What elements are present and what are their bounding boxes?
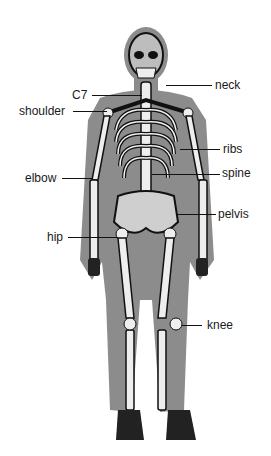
shoulder-label: shoulder <box>19 105 65 117</box>
knee-label: knee <box>207 319 233 331</box>
c7-leader <box>92 95 142 96</box>
spine-leader <box>152 174 220 175</box>
skull-icon <box>129 33 163 78</box>
elbow-leader <box>62 178 92 179</box>
shoulder-leader <box>73 111 107 112</box>
neck-label: neck <box>215 79 240 91</box>
spine-label: spine <box>222 167 251 179</box>
neck-leader <box>166 85 212 86</box>
knee-joint-icon <box>124 318 136 330</box>
pelvis-leader <box>176 214 216 215</box>
hip-leader <box>68 237 118 238</box>
ribs-leader <box>180 149 220 150</box>
knee-joint-icon <box>170 318 182 330</box>
foot-icon <box>116 410 196 440</box>
skeleton-illustration <box>0 0 271 456</box>
ribs-label: ribs <box>223 143 242 155</box>
pelvis-label: pelvis <box>218 208 249 220</box>
elbow-label: elbow <box>25 172 56 184</box>
knee-leader <box>182 325 202 326</box>
hip-label: hip <box>47 231 63 243</box>
c7-label: C7 <box>72 89 87 101</box>
skeleton-diagram: neck C7 shoulder ribs elbow spine pelvis… <box>0 0 271 456</box>
pelvis-icon <box>114 191 178 233</box>
